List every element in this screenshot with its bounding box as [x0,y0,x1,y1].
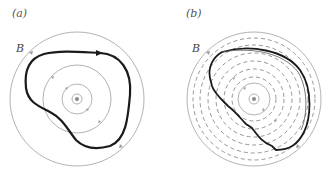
loop-direction-arrow-icon [96,50,103,56]
panel-b [187,32,321,166]
current-wire-icon [252,97,256,101]
panel-a [10,32,144,166]
current-wire-icon [75,97,79,101]
diagram-canvas [0,0,322,176]
